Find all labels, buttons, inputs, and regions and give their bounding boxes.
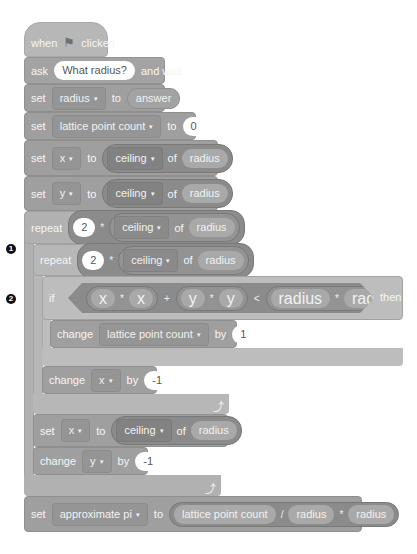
chevron-down-icon: ▾ <box>136 511 140 518</box>
multiply-operator[interactable]: 2 * ceiling▾ of radius <box>68 210 244 245</box>
chevron-down-icon: ▾ <box>166 257 170 264</box>
reset-x-block[interactable]: set x▾ to ceiling▾ of radius <box>33 414 228 447</box>
factor-input[interactable]: 2 <box>73 218 95 237</box>
variable-dropdown[interactable]: lattice point count▾ <box>52 115 162 138</box>
multiply-symbol: * <box>109 255 113 266</box>
ask-and-wait-block[interactable]: ask What radius? and wait <box>24 57 165 84</box>
set-label: set <box>40 425 55 437</box>
variable-dropdown[interactable]: x▾ <box>61 419 91 442</box>
y-reporter[interactable]: y <box>181 289 205 308</box>
change-y-block[interactable]: change y▾ by -1 <box>33 447 148 475</box>
variable-dropdown[interactable]: y▾ <box>52 182 82 205</box>
radius-reporter[interactable]: radius <box>191 421 237 440</box>
value-input[interactable]: -1 <box>135 452 161 471</box>
if-bottom-bar <box>42 348 403 366</box>
when-flag-clicked-block[interactable]: when ⚑ clicked <box>24 22 108 57</box>
radius-reporter[interactable]: radius <box>288 505 334 524</box>
variable-name: lattice point count <box>60 120 146 132</box>
set-approximate-pi-block[interactable]: set approximate pi▾ to lattice point cou… <box>24 496 362 532</box>
ceiling-operator[interactable]: ceiling▾ of radius <box>102 144 232 173</box>
of-label: of <box>177 425 186 437</box>
ceiling-operator[interactable]: ceiling▾ of radius <box>118 246 248 275</box>
of-label: of <box>168 152 177 164</box>
function-dropdown[interactable]: ceiling▾ <box>116 419 171 442</box>
and-wait-label: and wait <box>141 65 182 77</box>
variable-dropdown[interactable]: y▾ <box>82 450 112 473</box>
factor-input[interactable]: 2 <box>82 251 104 270</box>
variable-name: x <box>60 152 66 164</box>
change-label: change <box>40 455 76 467</box>
chevron-down-icon: ▾ <box>160 427 164 434</box>
lattice-count-reporter[interactable]: lattice point count <box>174 505 276 524</box>
change-lattice-count-block[interactable]: change lattice point count▾ by 1 <box>50 320 237 348</box>
radius-reporter[interactable]: radius <box>348 505 394 524</box>
radius-reporter[interactable]: radius <box>271 289 331 308</box>
ask-prompt-input[interactable]: What radius? <box>54 61 135 80</box>
change-label: change <box>49 374 85 386</box>
set-radius-block[interactable]: set radius▾ to answer <box>24 84 165 112</box>
value-input[interactable]: -1 <box>144 371 170 390</box>
chevron-down-icon: ▾ <box>157 224 161 231</box>
function-name: ceiling <box>131 254 162 266</box>
variable-dropdown[interactable]: x▾ <box>52 147 82 170</box>
change-x-block[interactable]: change x▾ by -1 <box>42 366 157 394</box>
y-reporter[interactable]: y <box>219 289 243 308</box>
inner-repeat-block[interactable]: repeat 2 * ceiling▾ of radius <box>33 244 229 276</box>
to-label: to <box>167 120 176 132</box>
x-reporter[interactable]: x <box>91 289 115 308</box>
if-label: if <box>49 292 67 304</box>
multiply-operator[interactable]: x * x <box>86 286 158 311</box>
chevron-down-icon: ▾ <box>94 95 98 102</box>
radius-reporter[interactable]: radius <box>182 184 228 203</box>
set-y-block[interactable]: set y▾ to ceiling▾ of radius <box>24 176 218 211</box>
function-dropdown[interactable]: ceiling▾ <box>123 249 178 272</box>
variable-name: lattice point count <box>107 328 193 340</box>
chevron-down-icon: ▾ <box>149 123 153 130</box>
repeat-label: repeat <box>40 254 71 266</box>
variable-dropdown[interactable]: approximate pi▾ <box>52 503 148 526</box>
to-label: to <box>154 508 163 520</box>
variable-name: radius <box>60 92 90 104</box>
function-dropdown[interactable]: ceiling▾ <box>107 147 162 170</box>
variable-name: y <box>60 187 66 199</box>
radius-reporter[interactable]: radius <box>198 251 244 270</box>
radius-reporter[interactable]: radius <box>189 218 235 237</box>
value-input[interactable]: 1 <box>232 325 254 344</box>
by-label: by <box>215 328 227 340</box>
loop-arrow-icon: ⤴ <box>213 398 224 414</box>
chevron-down-icon: ▾ <box>151 190 155 197</box>
of-label: of <box>183 254 192 266</box>
multiply-operator[interactable]: y * y <box>176 286 248 311</box>
x-reporter[interactable]: x <box>129 289 153 308</box>
chevron-down-icon: ▾ <box>100 458 104 465</box>
annotation-marker-1: 1 <box>6 244 16 254</box>
divide-operator[interactable]: lattice point count / radius * radius <box>169 502 399 527</box>
clicked-label: clicked <box>81 37 115 49</box>
outer-repeat-block[interactable]: repeat 2 * ceiling▾ of radius <box>24 211 221 244</box>
radius-reporter[interactable]: radius <box>182 149 228 168</box>
multiply-operator[interactable]: 2 * ceiling▾ of radius <box>77 243 253 278</box>
set-lattice-count-block[interactable]: set lattice point count▾ to 0 <box>24 112 196 140</box>
variable-dropdown[interactable]: lattice point count▾ <box>99 323 209 346</box>
set-x-block[interactable]: set x▾ to ceiling▾ of radius <box>24 140 218 176</box>
by-label: by <box>127 374 139 386</box>
set-label: set <box>31 188 46 200</box>
variable-name: y <box>90 455 96 467</box>
answer-reporter[interactable]: answer <box>127 88 180 109</box>
ceiling-operator[interactable]: ceiling▾ of radius <box>109 213 239 242</box>
ask-label: ask <box>31 65 48 77</box>
annotation-marker-2: 2 <box>6 294 16 304</box>
function-dropdown[interactable]: ceiling▾ <box>107 182 162 205</box>
variable-name: approximate pi <box>60 508 132 520</box>
ceiling-operator[interactable]: ceiling▾ of radius <box>111 416 241 445</box>
function-dropdown[interactable]: ceiling▾ <box>114 216 169 239</box>
chevron-down-icon: ▾ <box>69 190 73 197</box>
variable-dropdown[interactable]: x▾ <box>91 369 121 392</box>
of-label: of <box>174 222 183 234</box>
less-than-condition[interactable]: x * x + y * y < radius * radius <box>68 283 374 313</box>
to-label: to <box>112 92 121 104</box>
ceiling-operator[interactable]: ceiling▾ of radius <box>102 179 232 208</box>
variable-dropdown[interactable]: radius▾ <box>52 87 106 110</box>
value-input[interactable]: 0 <box>183 117 205 136</box>
function-name: ceiling <box>124 424 155 436</box>
